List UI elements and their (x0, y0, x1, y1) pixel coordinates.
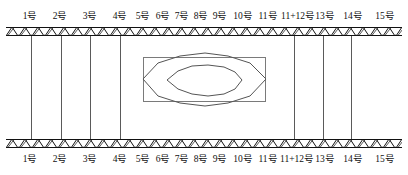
bottom-band-hatch-icon (6, 139, 402, 148)
outer-contour-curve (143, 53, 266, 106)
inner-contour-curve (167, 65, 242, 96)
bottom-ground-band (6, 139, 402, 148)
engineering-cross-section-figure: 1号2号3号4号5号6号7号8号9号10号11号11+12号13号14号15号 … (0, 0, 408, 175)
contour-group (0, 0, 408, 175)
